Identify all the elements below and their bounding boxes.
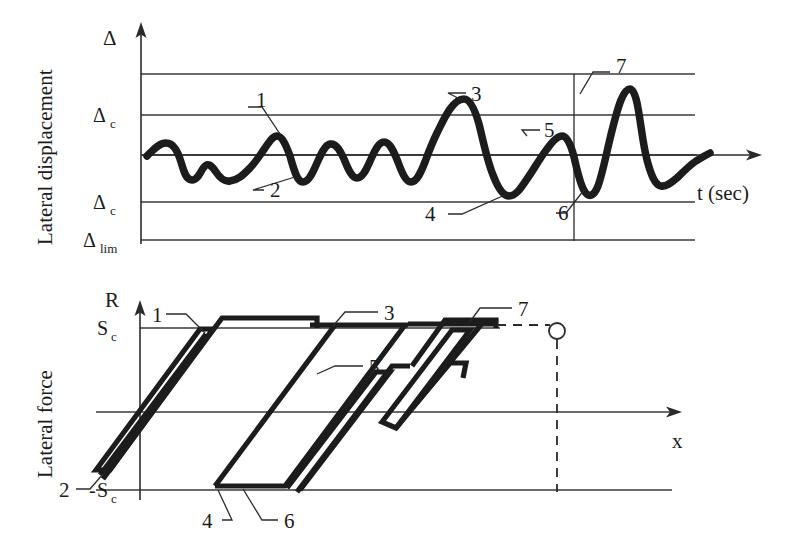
top-callout-4: 4: [425, 194, 507, 226]
top-y-axis-symbol: Δ: [103, 26, 117, 50]
top-ytick-lim-sub: lim: [100, 241, 117, 256]
technical-diagram: 1 2 3 4 5 6 7: [0, 0, 804, 538]
top-ytick-upper-label: Δ: [93, 104, 106, 126]
bottom-callout-5-label: 5: [369, 355, 380, 379]
top-ytick-upper-sub: c: [110, 116, 116, 131]
bottom-callout-2-label: 2: [59, 478, 70, 502]
bottom-callout-3-label: 3: [384, 301, 395, 325]
top-callout-4-label: 4: [425, 202, 436, 226]
bottom-callout-7-label: 7: [518, 297, 529, 321]
top-ytick-delta-c-lower: Δ c: [93, 191, 116, 218]
top-callout-6: 6: [556, 190, 584, 225]
top-ytick-lower-sub: c: [110, 203, 116, 218]
displacement-waveform: [147, 89, 710, 196]
bottom-callout-5: 5: [317, 355, 380, 379]
bottom-ytick-sc: S c: [97, 317, 117, 344]
top-callout-3-label: 3: [471, 82, 482, 106]
top-callout-1: 1: [248, 88, 280, 134]
top-x-axis-label: t (sec): [697, 181, 749, 205]
top-callout-1-label: 1: [256, 88, 267, 112]
top-ytick-delta-lim: Δ lim: [83, 229, 117, 256]
top-ytick-lower-label: Δ: [93, 191, 106, 213]
top-panel-side-title: Lateral displacement: [33, 69, 57, 245]
bottom-x-axis-label: x: [672, 429, 683, 453]
bottom-callout-4: 4: [202, 490, 232, 533]
top-callout-2: 2: [253, 177, 295, 202]
bottom-panel-side-title: Lateral force: [33, 370, 57, 478]
bottom-ytick-neg-sc-sub: c: [111, 491, 117, 506]
bottom-panel: 1 2 3 4 5 6 7: [33, 288, 683, 533]
bottom-ytick-neg-sc: - S c: [89, 479, 117, 506]
top-callout-5-label: 5: [544, 118, 555, 142]
top-callout-5: 5: [522, 118, 555, 142]
top-ytick-lim-label: Δ: [83, 229, 96, 251]
top-callout-6-label: 6: [558, 201, 569, 225]
hysteresis-branch-2: [100, 334, 206, 475]
bottom-ytick-sc-sub: c: [111, 329, 117, 344]
bottom-ytick-neg-sc-label: S: [97, 479, 108, 501]
bottom-callout-6: 6: [243, 489, 295, 533]
bottom-y-axis-symbol: R: [105, 288, 119, 312]
limit-circle-marker: [549, 323, 565, 339]
top-callout-7-label: 7: [616, 54, 627, 78]
hysteresis-loading-to-sc: [103, 318, 317, 479]
bottom-ytick-neg-sc-prefix: -: [89, 479, 96, 501]
top-panel: 1 2 3 4 5 6 7: [33, 22, 762, 256]
top-callout-2-label: 2: [270, 178, 281, 202]
figure-canvas: 1 2 3 4 5 6 7: [0, 0, 804, 538]
bottom-callout-1-label: 1: [152, 303, 163, 327]
top-ytick-delta-c-upper: Δ c: [93, 104, 116, 131]
bottom-callout-4-label: 4: [202, 509, 213, 533]
bottom-callout-3: 3: [333, 301, 395, 326]
bottom-ytick-sc-label: S: [97, 317, 108, 339]
bottom-callout-6-label: 6: [284, 509, 295, 533]
